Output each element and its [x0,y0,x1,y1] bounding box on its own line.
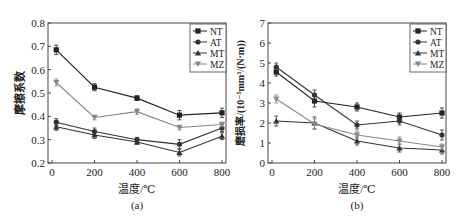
triangle-up-marker-icon [219,133,225,139]
y-tick-label: 6 [260,37,266,49]
x-axis-label: 温度/℃ [118,182,155,195]
y-tick-label: 4 [260,77,266,89]
square-marker-icon [415,28,420,33]
chart-a-canvas: 0.20.30.40.50.60.70.80200400600800温度/℃摩擦… [0,0,232,219]
panel-label: (a) [131,199,144,212]
y-tick-label: 2 [260,117,266,129]
square-marker-icon [219,110,224,115]
legend-label: MZ [430,60,444,70]
y-tick-label: 0.4 [31,110,45,122]
circle-marker-icon [415,39,420,44]
triangle-up-marker-icon [53,124,59,130]
circle-marker-icon [439,132,444,137]
chart-b-canvas: 012345670200400600800温度/℃磨损率/(10⁻⁵mm³/(N… [232,0,464,219]
legend-label: NT [210,27,223,37]
legend-label: MT [430,49,444,59]
series-mz [53,79,225,131]
panel-label: (b) [351,199,364,212]
legend-label: AT [210,38,222,48]
legend: NTATMTMZ [190,24,226,72]
series-nt [274,68,445,121]
legend-label: AT [430,38,442,48]
y-tick-label: 1 [260,137,266,149]
x-tick-label: 600 [171,166,188,178]
x-tick-label: 400 [129,166,146,178]
x-tick-label: 400 [349,166,366,178]
x-tick-label: 800 [434,166,451,178]
y-tick-label: 0 [260,157,266,169]
series-at [274,63,445,140]
x-tick-label: 200 [306,166,323,178]
y-tick-label: 7 [260,17,266,29]
triangle-down-marker-icon [273,96,279,102]
friction-coefficient-chart: 0.20.30.40.50.60.70.80200400600800温度/℃摩擦… [0,0,232,219]
x-tick-label: 600 [391,166,408,178]
y-tick-label: 5 [260,57,266,69]
y-tick-label: 0.8 [31,17,45,29]
y-axis-label: 摩擦系数 [13,70,26,115]
square-marker-icon [54,47,59,52]
series-line [56,83,222,128]
square-marker-icon [134,96,139,101]
legend-label: MT [210,49,224,59]
triangle-down-marker-icon [439,144,445,150]
x-axis-label: 温度/℃ [338,182,375,195]
wear-rate-chart: 012345670200400600800温度/℃磨损率/(10⁻⁵mm³/(N… [232,0,464,219]
y-tick-label: 0.2 [31,157,45,169]
x-tick-label: 0 [49,166,55,178]
square-marker-icon [439,110,444,115]
y-tick-label: 3 [260,97,266,109]
square-marker-icon [195,28,200,33]
circle-marker-icon [397,118,402,123]
x-tick-label: 0 [269,166,275,178]
legend-label: MZ [210,60,224,70]
circle-marker-icon [354,122,359,127]
y-tick-label: 0.5 [31,87,45,99]
circle-marker-icon [274,64,279,69]
circle-marker-icon [177,142,182,147]
x-tick-label: 200 [86,166,103,178]
series-line [276,72,442,117]
y-tick-label: 0.6 [31,64,45,76]
x-tick-label: 800 [214,166,231,178]
circle-marker-icon [312,92,317,97]
circle-marker-icon [195,39,200,44]
square-marker-icon [177,113,182,118]
square-marker-icon [354,104,359,109]
legend: NTATMTMZ [410,24,446,72]
y-tick-label: 0.3 [31,134,45,146]
y-axis-label: 磨损率/(10⁻⁵mm³/(N·m)) [234,40,247,147]
square-marker-icon [92,85,97,90]
y-tick-label: 0.7 [31,40,45,52]
legend-label: NT [430,27,443,37]
